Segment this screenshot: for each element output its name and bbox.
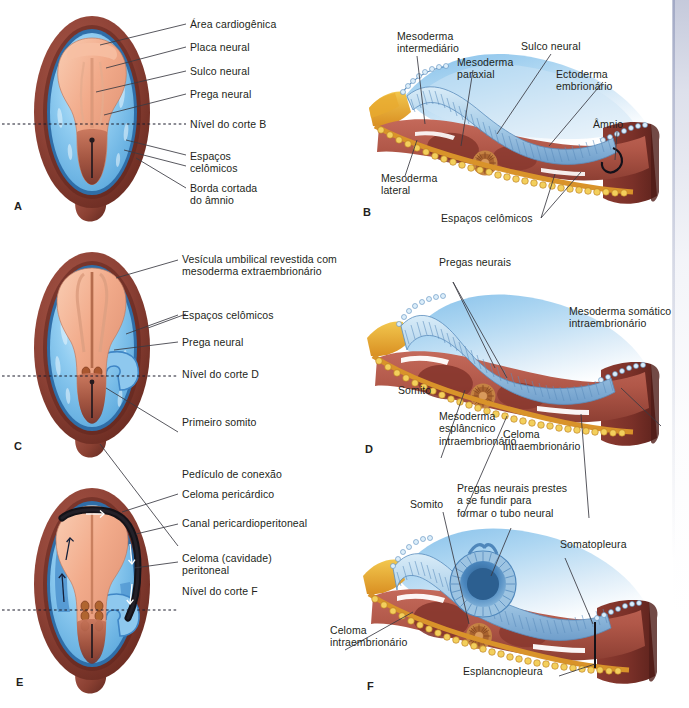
- label-f-somatopleura: Somatopleura: [560, 538, 627, 550]
- label-c-neural-fold: Prega neural: [182, 336, 243, 348]
- primitive-node-a: [89, 137, 94, 142]
- panel-letter-a: A: [14, 200, 22, 212]
- label-c-first-somite: Primeiro somito: [182, 416, 256, 428]
- panel-letter-e: E: [16, 676, 23, 688]
- panel-letter-b: B: [363, 206, 371, 218]
- label-d-neural-folds: Pregas neurais: [439, 256, 511, 268]
- label-d-somatic-mesoderm: Mesoderma somático intraembrionário: [569, 305, 671, 330]
- label-e-section-level-f: Nível do corte F: [182, 585, 258, 597]
- panel-b: B Mesoderma intermediário Mesoderma para…: [345, 0, 689, 236]
- panel-e-illustration: [0, 472, 345, 708]
- label-a-neural-groove: Sulco neural: [190, 65, 250, 77]
- label-a-neural-fold: Prega neural: [190, 88, 251, 100]
- label-a-section-level-b: Nível do corte B: [190, 118, 266, 130]
- panel-letter-f: F: [367, 680, 374, 692]
- panel-e: E Celoma pericárdico Canal pericardioper…: [0, 472, 345, 708]
- label-e-pericardial-celom: Celoma pericárdico: [182, 488, 274, 500]
- panel-a: A Área cardiogênica Placa neural Sulco n…: [0, 0, 345, 236]
- label-b-amnion: Âmnio: [593, 118, 623, 130]
- label-a-amnion-cut-border: Borda cortada do âmnio: [190, 182, 257, 207]
- label-b-neural-groove: Sulco neural: [521, 40, 581, 52]
- label-d-somite: Somito: [398, 384, 431, 396]
- label-b-paraxial-mesoderm: Mesoderma paraxial: [457, 56, 513, 81]
- label-e-peritoneal-celom: Celoma (cavidade) peritoneal: [182, 552, 272, 577]
- label-c-celomic-spaces: Espaços celômicos: [182, 309, 274, 321]
- label-c-section-level-d: Nível do corte D: [182, 368, 259, 380]
- panel-a-illustration: [0, 0, 345, 236]
- label-f-esplancnopleura: Esplancnopleura: [463, 665, 543, 677]
- label-c-umbilical-vesicle: Vesícula umbilical revestida com mesoder…: [182, 253, 337, 278]
- label-f-intraembryonic-celom: Celoma intraembrionário: [330, 624, 407, 649]
- label-f-neural-folds-fusing: Pregas neurais prestes a se fundir para …: [457, 482, 567, 519]
- label-a-cardiogenic-area: Área cardiogênica: [190, 18, 276, 30]
- label-e-pericardioperitoneal: Canal pericardioperitoneal: [182, 517, 307, 529]
- label-b-lateral-mesoderm: Mesoderma lateral: [381, 172, 437, 197]
- panel-letter-c: C: [14, 440, 22, 452]
- panel-f: F Somito Pregas neurais prestes a se fun…: [345, 472, 689, 708]
- panel-d: D Pregas neurais Mesoderma somático intr…: [345, 236, 689, 472]
- figure-page: A Área cardiogênica Placa neural Sulco n…: [0, 0, 689, 708]
- label-d-intraembryonic-celom: Celoma intraembrionário: [503, 428, 580, 453]
- label-a-celomic-spaces: Espaços celômicos: [190, 150, 238, 175]
- panel-c: C Vesícula umbilical revestida com mesod…: [0, 236, 345, 472]
- panel-letter-d: D: [365, 443, 373, 455]
- label-b-embryonic-ectoderm: Ectoderma embrionário: [556, 68, 613, 93]
- label-b-celomic-spaces: Espaços celômicos: [441, 212, 533, 224]
- label-a-neural-plate: Placa neural: [190, 41, 250, 53]
- label-b-intermediate-mesoderm: Mesoderma intermediário: [397, 30, 459, 55]
- label-f-somite: Somito: [410, 498, 443, 510]
